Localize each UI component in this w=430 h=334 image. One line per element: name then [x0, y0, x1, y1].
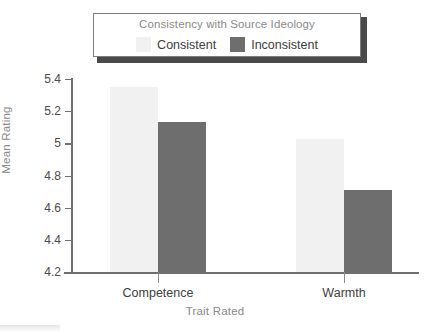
scan-artifact — [0, 325, 60, 332]
legend-label-inconsistent: Inconsistent — [251, 38, 318, 52]
bar-chart: Consistency with Source Ideology Consist… — [0, 0, 430, 334]
plot-area: 4.24.44.64.855.25.4 — [72, 79, 418, 272]
y-tick-label-4.8: 4.8 — [44, 169, 61, 183]
legend-item-inconsistent: Inconsistent — [230, 37, 318, 52]
x-axis-line — [64, 272, 419, 274]
legend-item-consistent: Consistent — [136, 37, 216, 52]
y-tick-label-4.4: 4.4 — [44, 233, 61, 247]
y-tick-4.8: 4.8 — [65, 176, 72, 177]
x-category-label-competence: Competence — [123, 286, 194, 300]
y-tick-label-4.6: 4.6 — [44, 201, 61, 215]
y-tick-label-4.2: 4.2 — [44, 265, 61, 279]
bar-competence-inconsistent — [158, 122, 206, 272]
x-category-label-warmth: Warmth — [322, 286, 365, 300]
y-tick-5.4: 5.4 — [65, 79, 72, 80]
y-tick-5.2: 5.2 — [65, 111, 72, 112]
chart-legend: Consistency with Source Ideology Consist… — [93, 13, 361, 57]
x-axis-title: Trait Rated — [0, 305, 430, 317]
legend-swatch-consistent — [136, 37, 151, 52]
y-tick-5: 5 — [65, 143, 72, 144]
x-tick-competence — [158, 272, 159, 283]
y-tick-label-5.2: 5.2 — [44, 104, 61, 118]
legend-label-consistent: Consistent — [157, 38, 216, 52]
bar-warmth-consistent — [296, 139, 344, 272]
y-tick-label-5.4: 5.4 — [44, 72, 61, 86]
legend-title: Consistency with Source Ideology — [94, 18, 360, 30]
y-tick-4.6: 4.6 — [65, 208, 72, 209]
y-axis-title: Mean Rating — [0, 106, 12, 173]
x-tick-warmth — [344, 272, 345, 283]
bar-warmth-inconsistent — [344, 190, 392, 272]
legend-swatch-inconsistent — [230, 37, 245, 52]
y-tick-4.2: 4.2 — [65, 272, 72, 273]
bar-competence-consistent — [110, 87, 158, 272]
y-tick-label-5: 5 — [54, 136, 61, 150]
legend-entries: Consistent Inconsistent — [94, 37, 360, 52]
y-tick-4.4: 4.4 — [65, 240, 72, 241]
